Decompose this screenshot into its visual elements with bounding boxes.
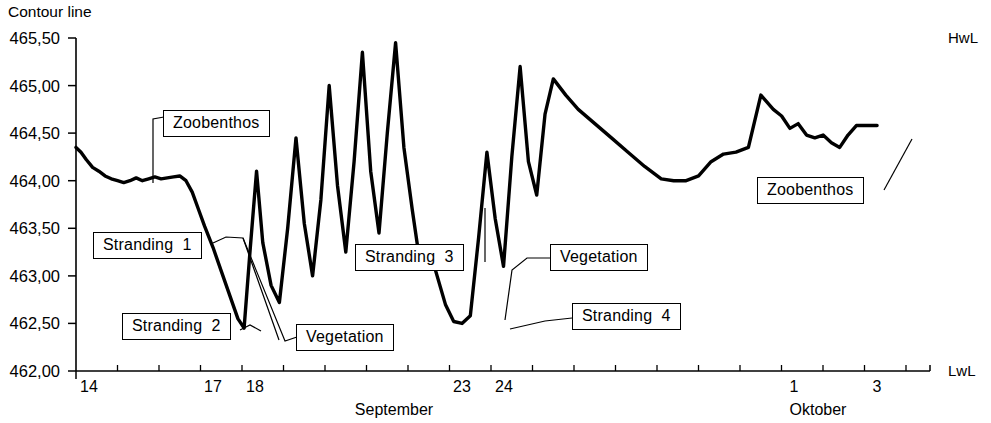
x-tick-label: 18 <box>246 378 264 395</box>
leader-vegetation-right <box>505 258 551 320</box>
x-tick-label: 17 <box>204 378 222 395</box>
y-axis-title: Contour line <box>8 3 92 20</box>
y-tick-label: 465,00 <box>10 77 60 95</box>
callout-vegetation-right: Vegetation <box>550 244 648 271</box>
y-tick-label: 462,00 <box>10 362 60 380</box>
month-label-september: September <box>355 401 434 418</box>
x-tick-label: 1 <box>790 378 799 395</box>
y-tick-label: 463,50 <box>10 219 60 237</box>
contour-line-chart: Contour line HwL LwL 465,50 465,00 464,5… <box>0 0 991 423</box>
y-tick-label: 465,50 <box>10 29 60 47</box>
callout-stranding-1: Stranding 1 <box>93 232 202 259</box>
leader-stranding-4 <box>510 318 572 329</box>
x-tick-label: 14 <box>80 378 98 395</box>
callout-stranding-2: Stranding 2 <box>122 313 231 340</box>
x-tick-label: 24 <box>495 378 513 395</box>
callout-zoobenthos-left: Zoobenthos <box>163 110 270 137</box>
callout-zoobenthos-right: Zoobenthos <box>757 177 864 204</box>
y-tick-label: 463,00 <box>10 267 60 285</box>
y-axis-ticks <box>68 38 76 371</box>
y-tick-label: 464,50 <box>10 124 60 142</box>
y-axis-tick-labels: 465,50 465,00 464,50 464,00 463,50 463,0… <box>10 29 60 380</box>
hwl-label: HwL <box>948 29 978 46</box>
lwl-label: LwL <box>948 362 976 379</box>
callout-stranding-4: Stranding 4 <box>572 303 681 330</box>
callout-leader-lines <box>153 117 912 341</box>
leader-zoobenthos-right <box>884 139 912 190</box>
x-axis-tick-labels: 14 17 18 23 24 1 3 <box>80 378 881 395</box>
y-tick-label: 462,50 <box>10 314 60 332</box>
chart-container: Contour line HwL LwL 465,50 465,00 464,5… <box>0 0 991 423</box>
month-label-oktober: Oktober <box>790 401 848 418</box>
callout-vegetation-left: Vegetation <box>296 324 394 351</box>
x-axis-ticks <box>76 365 930 379</box>
x-tick-label: 23 <box>453 378 471 395</box>
y-tick-label: 464,00 <box>10 172 60 190</box>
x-tick-label: 3 <box>873 378 882 395</box>
callout-stranding-3: Stranding 3 <box>355 244 464 271</box>
